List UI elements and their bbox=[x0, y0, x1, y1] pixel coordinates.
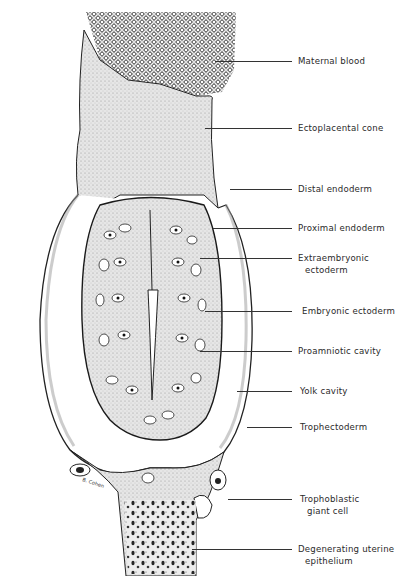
label-text: Maternal blood bbox=[298, 56, 365, 66]
label-extraembryonic-ectoderm: Extraembryonic ectoderm bbox=[298, 252, 369, 276]
label-yolk-cavity: Yolk cavity bbox=[300, 385, 348, 397]
embryo-illustration: B. Cohen bbox=[0, 0, 406, 576]
label-text: Degenerating uterine bbox=[298, 544, 394, 554]
label-text: Yolk cavity bbox=[300, 386, 348, 396]
leader-line-yolk-cavity bbox=[237, 391, 292, 392]
label-trophoblastic-giant-cell: Trophoblastic giant cell bbox=[300, 493, 359, 517]
leader-line-proximal-endoderm bbox=[213, 228, 292, 229]
degenerating-uterine-epithelium-region bbox=[124, 500, 196, 574]
label-trophectoderm: Trophectoderm bbox=[300, 421, 367, 433]
leader-line-trophectoderm bbox=[247, 427, 292, 428]
label-degenerating-uterine-epithelium: Degenerating uterine epithelium bbox=[298, 543, 394, 567]
leader-line-extraembryonic-ectoderm bbox=[200, 258, 292, 259]
label-proamniotic-cavity: Proamniotic cavity bbox=[298, 345, 381, 357]
leader-line-ectoplacental-cone bbox=[205, 128, 292, 129]
label-text: Proximal endoderm bbox=[298, 223, 385, 233]
artist-signature: B. Cohen bbox=[82, 476, 105, 489]
label-embryonic-ectoderm: Embryonic ectoderm bbox=[302, 305, 395, 317]
label-maternal-blood: Maternal blood bbox=[298, 55, 365, 67]
label-text: Distal endoderm bbox=[298, 184, 372, 194]
label-text: Trophectoderm bbox=[300, 422, 367, 432]
label-text: Embryonic ectoderm bbox=[302, 306, 395, 316]
leader-line-trophoblastic-giant-cell bbox=[228, 499, 292, 500]
label-text-line2: ectoderm bbox=[298, 264, 369, 276]
leader-line-degenerating-uterine-epithelium bbox=[192, 549, 292, 550]
label-text: Ectoplacental cone bbox=[298, 123, 383, 133]
egg-cylinder bbox=[82, 198, 222, 441]
label-text: Extraembryonic bbox=[298, 253, 369, 263]
label-ectoplacental-cone: Ectoplacental cone bbox=[298, 122, 383, 134]
label-text: Proamniotic cavity bbox=[298, 346, 381, 356]
leader-line-proamniotic-cavity bbox=[200, 351, 292, 352]
label-text-line2: giant cell bbox=[300, 505, 359, 517]
label-proximal-endoderm: Proximal endoderm bbox=[298, 222, 385, 234]
leader-line-maternal-blood bbox=[215, 61, 292, 62]
label-distal-endoderm: Distal endoderm bbox=[298, 183, 372, 195]
leader-line-embryonic-ectoderm bbox=[205, 311, 292, 312]
leader-line-distal-endoderm bbox=[230, 189, 292, 190]
label-text-line2: epithelium bbox=[298, 555, 394, 567]
label-text: Trophoblastic bbox=[300, 494, 359, 504]
